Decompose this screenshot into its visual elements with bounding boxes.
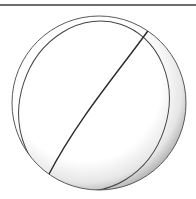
ball-illustration — [0, 0, 196, 199]
ball-outline — [12, 16, 186, 190]
ball-icon — [0, 1, 191, 199]
